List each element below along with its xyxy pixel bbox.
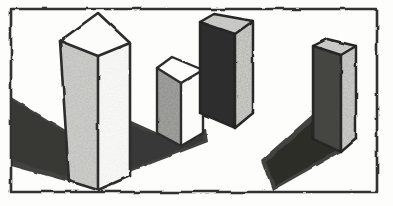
perspective-box-drawing: [0, 0, 393, 206]
paper-grain-overlay: [0, 0, 393, 206]
drawing-canvas: Two-point perspective box study graphite…: [0, 0, 393, 206]
